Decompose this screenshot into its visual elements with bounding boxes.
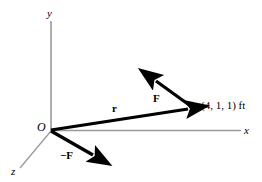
diagram-canvas — [0, 0, 262, 182]
force-couple-diagram: y x z O r F −F (4, 1, 1) ft — [0, 0, 262, 182]
negative-F-vector-label: −F — [60, 150, 73, 161]
z-axis-label: z — [11, 166, 15, 177]
r-vector-arrow — [51, 109, 188, 130]
origin-label: O — [37, 121, 46, 133]
F-vector-arrow — [156, 81, 192, 107]
z-axis-line — [20, 131, 51, 168]
point-coordinate-label: (4, 1, 1) ft — [201, 100, 245, 111]
x-axis-label: x — [244, 125, 249, 136]
r-vector-label: r — [112, 103, 117, 114]
F-vector-label: F — [153, 93, 160, 104]
y-axis-label: y — [47, 8, 52, 19]
